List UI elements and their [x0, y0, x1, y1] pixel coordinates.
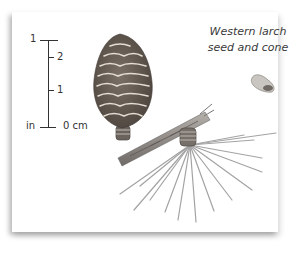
spur-shoot — [180, 128, 196, 146]
larch-illustration — [0, 0, 304, 258]
larch-cone — [94, 34, 153, 128]
larch-seed — [251, 75, 274, 92]
